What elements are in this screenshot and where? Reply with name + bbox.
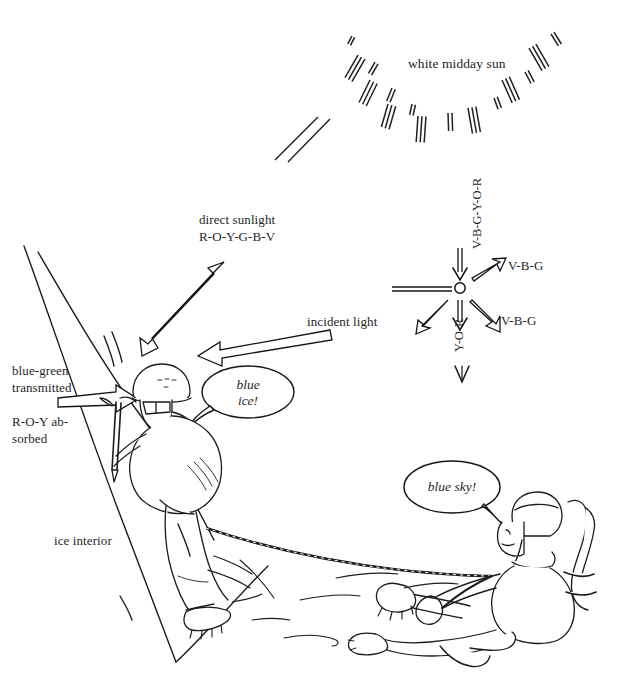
illustration-canvas: white midday sun xyxy=(0,0,617,691)
ground-texture xyxy=(0,0,617,691)
